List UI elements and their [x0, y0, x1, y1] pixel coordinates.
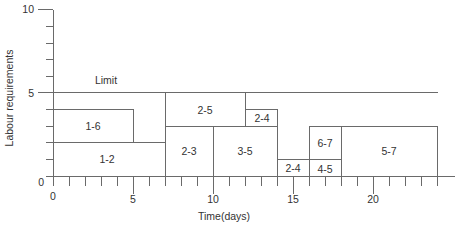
x-label-20: 20: [367, 193, 379, 205]
x-label-15: 15: [287, 193, 299, 205]
label-5-7: 5-7: [381, 145, 396, 157]
labour-histogram-chart: 1-2 1-6 2-3 2-5 3-5 2-4 2-4 4-5 6-7 5-7 …: [0, 0, 458, 230]
label-1-2: 1-2: [99, 153, 114, 165]
y-label-10: 10: [22, 3, 34, 15]
x-label-0: 0: [50, 190, 56, 202]
x-label-10: 10: [207, 193, 219, 205]
label-6-7: 6-7: [317, 137, 332, 149]
x-label-5: 5: [130, 193, 136, 205]
y-label-5: 5: [28, 87, 34, 99]
label-3-5: 3-5: [237, 145, 252, 157]
label-2-5: 2-5: [197, 104, 212, 116]
y-label-0: 0: [38, 176, 44, 188]
label-2-4-upper: 2-4: [254, 112, 269, 124]
x-minor-ticks: [70, 176, 438, 186]
label-2-3: 2-3: [181, 145, 196, 157]
label-1-6: 1-6: [85, 120, 100, 132]
limit-label: Limit: [95, 74, 117, 86]
label-4-5: 4-5: [317, 163, 332, 175]
y-axis-title: Labour requirements: [3, 50, 15, 147]
label-2-4-lower: 2-4: [285, 162, 300, 174]
x-axis-title: Time(days): [198, 210, 250, 222]
